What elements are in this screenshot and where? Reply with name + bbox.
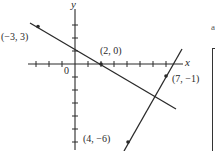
point-label-4-neg6: (4, −6)	[83, 134, 110, 144]
point-4-neg6	[126, 140, 130, 144]
point-label-neg3-3: (−3, 3)	[1, 32, 28, 42]
margin-letter: a	[211, 22, 215, 32]
point-label-7-neg1: (7, −1)	[172, 74, 199, 84]
point-neg3-3	[36, 25, 40, 29]
y-axis-label: y	[71, 0, 76, 10]
line-1	[30, 23, 176, 109]
point-7-neg1	[164, 74, 168, 78]
point-label-2-0: (2, 0)	[100, 46, 122, 56]
point-2-0	[99, 62, 103, 66]
origin-label: 0	[64, 66, 69, 76]
margin-bracket	[212, 48, 215, 151]
x-axis-label: x	[185, 57, 190, 68]
